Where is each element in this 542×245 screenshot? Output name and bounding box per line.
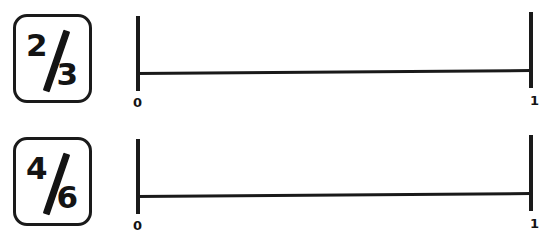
tick-mark-one-1 — [529, 12, 533, 88]
problem-row-1: 2 3 0 1 — [0, 0, 542, 122]
number-line-axis-2 — [137, 192, 531, 198]
problem-row-2: 4 6 0 1 — [0, 123, 542, 245]
tick-label-one-1: 1 — [530, 94, 539, 107]
number-line-2: 0 1 — [0, 123, 542, 245]
tick-mark-zero-1 — [136, 16, 140, 91]
tick-mark-one-2 — [529, 135, 533, 211]
tick-label-one-2: 1 — [530, 217, 539, 230]
number-line-1: 0 1 — [0, 0, 542, 122]
tick-label-zero-2: 0 — [133, 219, 142, 232]
tick-label-zero-1: 0 — [133, 96, 142, 109]
tick-mark-zero-2 — [136, 139, 140, 214]
number-line-axis-1 — [137, 69, 531, 75]
fraction-numberline-worksheet: 2 3 0 1 4 6 0 1 — [0, 0, 542, 245]
